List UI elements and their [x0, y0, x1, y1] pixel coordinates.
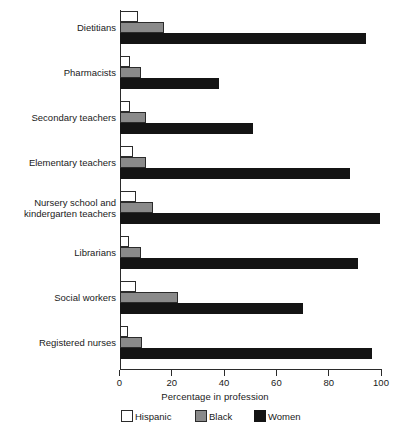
- x-tick-mark: [224, 370, 225, 376]
- x-tick-mark: [276, 370, 277, 376]
- category-label: Registered nurses: [0, 337, 116, 348]
- x-tick-mark: [381, 370, 382, 376]
- bar-black: [120, 22, 164, 33]
- category-label: Nursery school and kindergarten teachers: [0, 197, 116, 219]
- category-label: Elementary teachers: [0, 157, 116, 168]
- bar-women: [120, 78, 219, 89]
- category-group: Dietitians: [0, 11, 398, 50]
- x-tick-label: 40: [219, 377, 230, 388]
- bar-women: [120, 213, 380, 224]
- bar-women: [120, 303, 303, 314]
- bar-hispanic: [120, 281, 136, 292]
- x-tick-label: 80: [323, 377, 334, 388]
- x-tick-label: 0: [117, 377, 122, 388]
- x-axis-line: [120, 369, 382, 370]
- category-group: Pharmacists: [0, 56, 398, 95]
- bar-black: [120, 67, 141, 78]
- legend-swatch-icon: [195, 410, 207, 422]
- bar-women: [120, 33, 366, 44]
- bar-black: [120, 157, 146, 168]
- bar-black: [120, 247, 141, 258]
- bar-hispanic: [120, 56, 130, 67]
- category-label: Social workers: [0, 292, 116, 303]
- chart-legend: HispanicBlackWomen: [0, 410, 398, 430]
- legend-item-women[interactable]: Women: [254, 410, 301, 422]
- category-group: Social workers: [0, 281, 398, 320]
- bar-hispanic: [120, 191, 136, 202]
- legend-label: Hispanic: [135, 411, 171, 422]
- x-axis-title: Percentage in profession: [0, 391, 398, 402]
- bar-hispanic: [120, 236, 129, 247]
- bar-hispanic: [120, 101, 130, 112]
- bar-hispanic: [120, 146, 133, 157]
- category-label: Dietitians: [0, 22, 116, 33]
- x-tick-label: 60: [271, 377, 282, 388]
- category-label: Pharmacists: [0, 67, 116, 78]
- category-group: Secondary teachers: [0, 101, 398, 140]
- legend-swatch-icon: [121, 410, 133, 422]
- bar-group: [120, 56, 382, 95]
- bar-black: [120, 292, 178, 303]
- horizontal-bar-chart: 020406080100 DietitiansPharmacistsSecond…: [0, 0, 398, 436]
- bar-hispanic: [120, 326, 128, 337]
- bar-group: [120, 236, 382, 275]
- bar-group: [120, 101, 382, 140]
- legend-item-black[interactable]: Black: [195, 410, 232, 422]
- bar-group: [120, 281, 382, 320]
- bar-women: [120, 168, 350, 179]
- bar-women: [120, 348, 372, 359]
- bar-women: [120, 123, 253, 134]
- x-tick-mark: [119, 370, 120, 376]
- legend-label: Black: [209, 411, 232, 422]
- bar-black: [120, 337, 142, 348]
- bar-group: [120, 146, 382, 185]
- category-group: Elementary teachers: [0, 146, 398, 185]
- x-tick-label: 20: [167, 377, 178, 388]
- category-group: Nursery school and kindergarten teachers: [0, 191, 398, 230]
- bar-group: [120, 326, 382, 365]
- bar-group: [120, 11, 382, 50]
- legend-item-hispanic[interactable]: Hispanic: [121, 410, 171, 422]
- x-tick-label: 100: [373, 377, 389, 388]
- category-group: Registered nurses: [0, 326, 398, 365]
- bar-black: [120, 112, 146, 123]
- bar-women: [120, 258, 358, 269]
- x-tick-mark: [171, 370, 172, 376]
- bar-group: [120, 191, 382, 230]
- legend-swatch-icon: [254, 410, 266, 422]
- category-label: Secondary teachers: [0, 112, 116, 123]
- legend-label: Women: [268, 411, 301, 422]
- bar-hispanic: [120, 11, 138, 22]
- bar-black: [120, 202, 153, 213]
- x-tick-mark: [328, 370, 329, 376]
- category-label: Librarians: [0, 247, 116, 258]
- category-group: Librarians: [0, 236, 398, 275]
